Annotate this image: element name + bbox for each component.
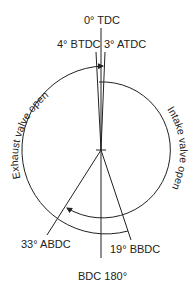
- intake-valve-label: Intake valve open: [165, 104, 189, 192]
- exhaust-valve-arc: [22, 66, 128, 234]
- bbdc-label: 19° BBDC: [110, 243, 160, 255]
- abdc-line: [47, 150, 101, 235]
- intake-valve-arc: [67, 82, 170, 218]
- bdc-label: BDC 180°: [78, 270, 127, 282]
- btdc-label: 4° BTDC: [57, 38, 101, 50]
- bbdc-line: [101, 150, 131, 240]
- atdc-line: [101, 52, 105, 150]
- abdc-label: 33° ABDC: [21, 238, 71, 250]
- exhaust-valve-label: Exhaust valve open: [8, 88, 50, 180]
- tdc-label: 0° TDC: [84, 14, 120, 26]
- atdc-label: 3° ATDC: [104, 38, 146, 50]
